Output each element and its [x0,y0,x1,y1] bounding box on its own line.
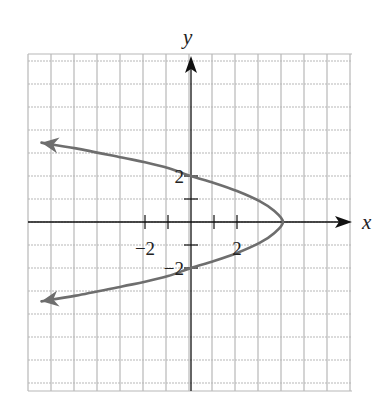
x-tick-label: −2 [135,238,155,259]
y-tick-label: −2 [164,258,184,279]
parabola-graph: −222−2 x y [0,0,384,407]
x-tick-label: 2 [232,238,242,259]
y-axis-label: y [181,25,193,49]
y-tick-label: 2 [175,166,185,187]
x-axis-label: x [361,210,372,234]
